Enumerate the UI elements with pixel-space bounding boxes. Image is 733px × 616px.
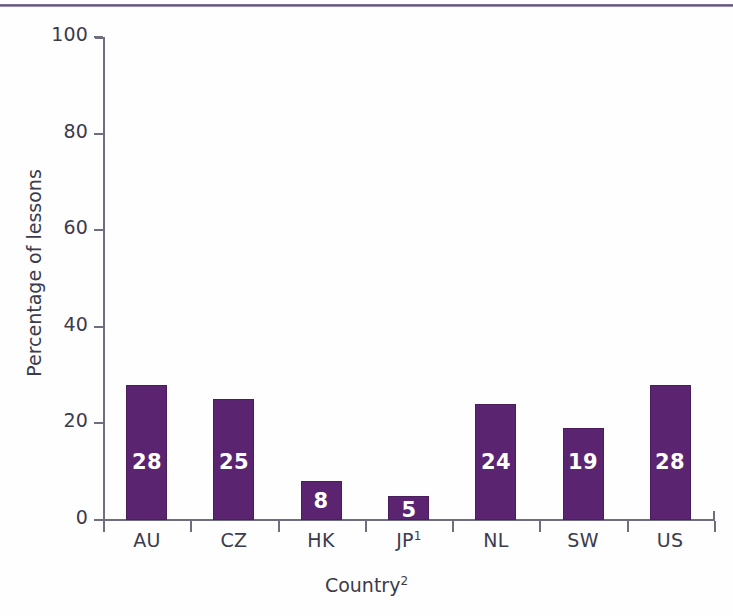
- x-axis-title: Country2: [0, 574, 733, 596]
- y-axis-tick-0: 0: [0, 519, 104, 521]
- x-axis-category-label-nl: NL: [446, 529, 546, 551]
- y-axis-tick-mark: [94, 229, 103, 231]
- bar-sw[interactable]: [563, 428, 604, 520]
- x-axis-category-text: SW: [567, 529, 598, 551]
- bar-value-label-au: 28: [107, 450, 187, 474]
- y-axis-tick-80: 80: [0, 133, 104, 135]
- chart-page: 020406080100 28AU25CZ8HK5JP124NL19SW28US…: [0, 0, 733, 616]
- y-axis-tick-20: 20: [0, 422, 104, 424]
- x-axis-category-text: AU: [133, 529, 161, 551]
- x-axis-title-text: Country: [325, 574, 400, 596]
- x-axis-category-text: HK: [307, 529, 334, 551]
- bar-value-label-sw: 19: [543, 450, 623, 474]
- x-axis-category-label-au: AU: [97, 529, 197, 551]
- y-axis-tick-40: 40: [0, 326, 104, 328]
- x-axis-category-label-cz: CZ: [184, 529, 284, 551]
- y-axis-tick-60: 60: [0, 229, 104, 231]
- bar-value-label-nl: 24: [456, 450, 536, 474]
- x-axis-category-label-jp: JP1: [359, 529, 459, 551]
- x-axis-category-text: NL: [483, 529, 508, 551]
- bar-value-label-hk: 8: [281, 489, 361, 513]
- y-axis-tick-mark: [94, 422, 103, 424]
- y-axis-tick-label: 20: [26, 409, 88, 431]
- bar-value-label-us: 28: [630, 450, 710, 474]
- x-axis-category-text: US: [657, 529, 684, 551]
- y-axis-tick-label: 0: [26, 506, 88, 528]
- x-axis-title-footnote: 2: [400, 574, 408, 588]
- y-axis-tick-mark: [94, 326, 103, 328]
- x-axis-category-text: CZ: [221, 529, 248, 551]
- y-axis-spine: [103, 37, 105, 521]
- x-axis-category-text: JP: [396, 529, 414, 551]
- x-axis-category-footnote: 1: [414, 529, 422, 543]
- y-axis-tick-label: 100: [26, 23, 88, 45]
- y-axis-tick-mark: [94, 133, 103, 135]
- bar-chart-plot-area: 020406080100 28AU25CZ8HK5JP124NL19SW28US…: [0, 0, 733, 616]
- y-axis-tick-label: 80: [26, 120, 88, 142]
- y-axis-tick-100: 100: [0, 36, 104, 38]
- x-axis-category-label-sw: SW: [533, 529, 633, 551]
- y-axis-title: Percentage of lessons: [23, 153, 45, 393]
- x-axis-category-label-us: US: [620, 529, 720, 551]
- y-axis-tick-mark: [94, 519, 103, 521]
- x-axis-category-label-hk: HK: [271, 529, 371, 551]
- bar-value-label-cz: 25: [194, 450, 274, 474]
- y-axis-tick-mark: [94, 36, 103, 38]
- bar-value-label-jp: 5: [369, 498, 449, 522]
- x-axis-right-cap-tick: [713, 511, 715, 521]
